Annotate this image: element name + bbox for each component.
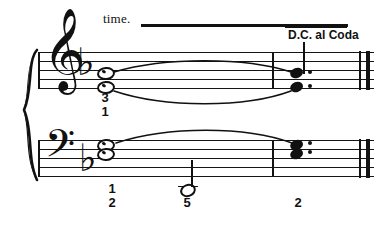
sheet-music-page: time. D.C. al Coda 𝄞 ♭ 𝄢 ♭ — [0, 0, 389, 226]
barline-opening — [38, 140, 40, 177]
note-stem — [191, 160, 193, 187]
flat-key-signature-icon: ♭ — [77, 43, 95, 81]
fingering-number: 2 — [106, 195, 118, 210]
fingering-number: 1 — [99, 104, 111, 119]
tie-treble-lower — [114, 91, 291, 104]
barline-measure — [272, 52, 274, 89]
augmentation-dot — [308, 84, 312, 88]
dc-al-coda-label: D.C. al Coda — [288, 28, 359, 42]
augmentation-dot — [308, 141, 312, 145]
barline-final-thin — [359, 139, 361, 178]
barline-opening — [38, 52, 40, 89]
barline-final-thick — [366, 139, 370, 178]
fingering-number: 3 — [99, 90, 111, 105]
augmentation-dot — [308, 70, 312, 74]
fingering-number: 2 — [292, 195, 304, 210]
barline-final-thin — [359, 51, 361, 90]
barline-measure — [272, 140, 274, 177]
fingering-number: 1 — [106, 181, 118, 196]
fingering-number: 5 — [181, 195, 193, 210]
augmentation-dot — [308, 150, 312, 154]
barline-final-thick — [366, 51, 370, 90]
note-stem — [303, 42, 305, 74]
time-label: time. — [103, 11, 130, 27]
staff-line — [38, 88, 374, 89]
bass-clef-icon: 𝄢 — [45, 125, 75, 172]
flat-key-signature-icon: ♭ — [79, 139, 97, 177]
